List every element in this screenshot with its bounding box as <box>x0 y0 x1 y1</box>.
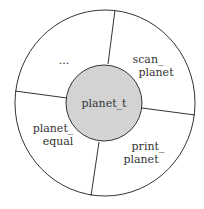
segment-print-planet-label-2: planet <box>123 153 159 166</box>
segment-planet-equal-label-1: planet_ <box>33 122 74 135</box>
segment-print-planet-label-1: print_ <box>132 140 165 153</box>
segment-ellipsis-label: ... <box>59 54 70 67</box>
segment-scan-planet-label-2: planet <box>138 66 174 79</box>
segment-planet-equal-label-2: equal <box>43 135 74 148</box>
abstract-data-type-diagram: planet_t ... scan_ planet print_ planet … <box>0 0 204 209</box>
segment-scan-planet-label-1: scan_ <box>133 53 164 66</box>
center-label: planet_t <box>81 97 127 110</box>
